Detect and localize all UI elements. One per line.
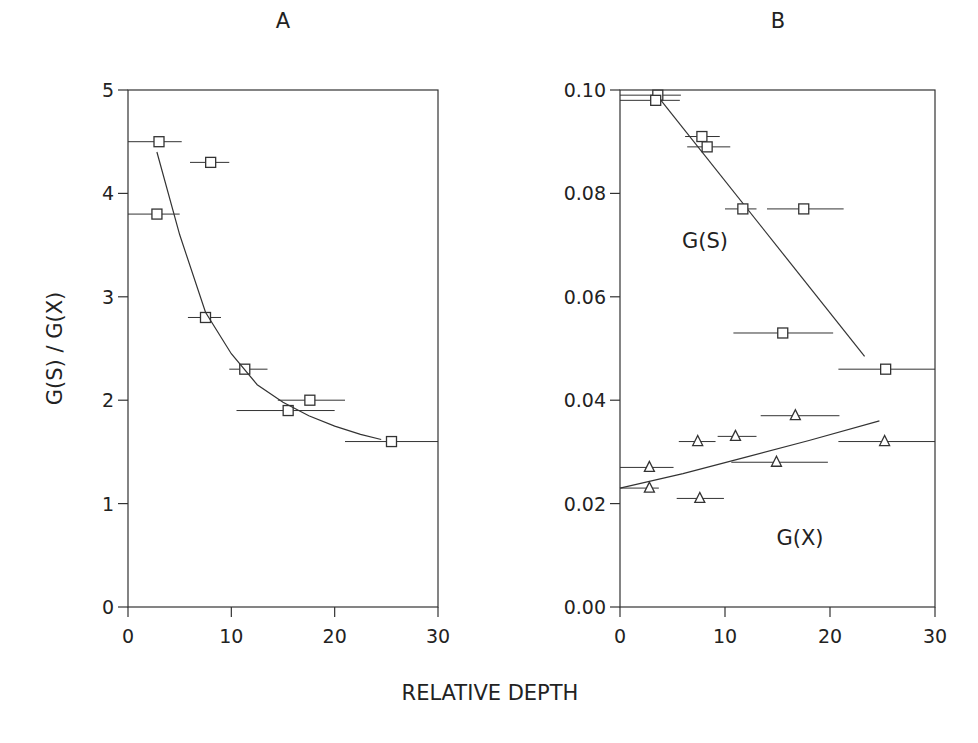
- x-tick-label: 0: [122, 625, 134, 647]
- square-marker: [738, 204, 748, 214]
- series-annotation: G(X): [776, 526, 823, 550]
- series-annotation: G(S): [682, 229, 728, 253]
- y-tick-label: 2: [102, 389, 114, 411]
- y-tick-label: 3: [102, 286, 114, 308]
- triangle-marker: [644, 482, 654, 492]
- fit-line: [620, 421, 879, 488]
- y-tick-label: 5: [102, 79, 114, 101]
- panel-title: B: [771, 9, 785, 33]
- square-marker: [651, 95, 661, 105]
- y-tick-label: 4: [102, 182, 114, 204]
- triangle-marker: [731, 430, 741, 440]
- y-tick-label: 0.10: [564, 79, 606, 101]
- triangle-marker: [880, 436, 890, 446]
- square-marker: [387, 437, 397, 447]
- square-marker: [206, 157, 216, 167]
- fit-line: [157, 152, 381, 440]
- x-tick-label: 30: [426, 625, 450, 647]
- y-axis-label: G(S) / G(X): [43, 292, 67, 405]
- panel-b: B0.000.020.040.060.080.100102030G(S)G(X): [564, 9, 947, 647]
- figure-canvas: A0123450102030G(S) / G(X)B0.000.020.040.…: [0, 0, 978, 743]
- panel-title: A: [276, 9, 291, 33]
- y-tick-label: 0.04: [564, 389, 606, 411]
- square-marker: [702, 142, 712, 152]
- square-marker: [154, 137, 164, 147]
- plot-frame: [128, 90, 438, 607]
- y-tick-label: 0: [102, 596, 114, 618]
- square-marker: [305, 395, 315, 405]
- square-marker: [697, 132, 707, 142]
- x-tick-label: 10: [713, 625, 737, 647]
- triangle-marker: [693, 436, 703, 446]
- x-tick-label: 10: [219, 625, 243, 647]
- fit-line: [657, 95, 865, 356]
- y-tick-label: 0.08: [564, 182, 606, 204]
- x-tick-label: 0: [614, 625, 626, 647]
- panel-a: A0123450102030G(S) / G(X): [43, 9, 450, 647]
- square-marker: [778, 328, 788, 338]
- triangle-marker: [644, 461, 654, 471]
- triangle-marker: [695, 492, 705, 502]
- square-marker: [152, 209, 162, 219]
- y-tick-label: 1: [102, 493, 114, 515]
- x-tick-label: 20: [818, 625, 842, 647]
- x-tick-label: 30: [923, 625, 947, 647]
- y-tick-label: 0.00: [564, 596, 606, 618]
- y-tick-label: 0.02: [564, 493, 606, 515]
- triangle-marker: [771, 456, 781, 466]
- square-marker: [799, 204, 809, 214]
- y-tick-label: 0.06: [564, 286, 606, 308]
- square-marker: [881, 364, 891, 374]
- x-tick-label: 20: [323, 625, 347, 647]
- x-axis-label: RELATIVE DEPTH: [402, 681, 579, 705]
- triangle-marker: [790, 410, 800, 420]
